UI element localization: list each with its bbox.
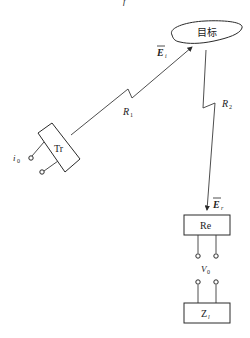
receiver-label: Re [200, 220, 212, 231]
load-terminal-2 [214, 280, 218, 284]
scattered-path-r2 [203, 50, 215, 210]
radar-scattering-diagram: f 目标 E i R 1 R 2 E r [0, 0, 250, 338]
svg-text:0: 0 [207, 269, 210, 275]
svg-text:E: E [156, 47, 164, 58]
incident-path-r1 [71, 47, 192, 135]
load: Z l [184, 280, 230, 323]
svg-text:R: R [122, 106, 129, 117]
svg-text:E: E [212, 199, 220, 210]
incident-field-label: E i [156, 46, 167, 59]
tr-terminal-2 [40, 170, 44, 174]
target-label: 目标 [197, 27, 217, 38]
load-label: Z [201, 308, 207, 319]
svg-text:2: 2 [229, 104, 232, 110]
cropped-top-text: f [123, 0, 127, 6]
receiver: Re [184, 215, 230, 258]
load-terminal-1 [196, 280, 200, 284]
svg-text:i: i [13, 153, 16, 163]
tr-terminal-1 [29, 156, 33, 160]
output-voltage-label: V 0 [201, 264, 210, 275]
diagram-canvas: f 目标 E i R 1 R 2 E r [0, 0, 250, 338]
svg-text:r: r [221, 205, 224, 211]
range-1-label: R 1 [122, 106, 133, 118]
reflected-field-label: E r [212, 198, 224, 211]
svg-text:R: R [221, 98, 228, 109]
transmitter: Tr [29, 123, 80, 174]
transmitter-label: Tr [54, 143, 64, 154]
range-2-label: R 2 [221, 98, 232, 110]
re-terminal-1 [196, 254, 200, 258]
re-terminal-2 [214, 254, 218, 258]
svg-text:0: 0 [17, 158, 20, 164]
svg-text:1: 1 [130, 112, 133, 118]
svg-text:i: i [165, 53, 167, 59]
input-current-label: i 0 [13, 153, 20, 164]
